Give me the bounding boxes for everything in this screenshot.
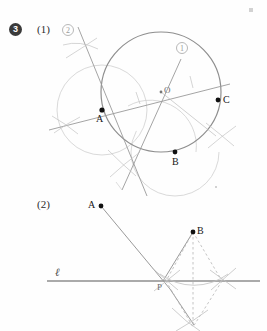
point-b-label: B bbox=[172, 157, 179, 167]
speck-stroke-top bbox=[116, 182, 122, 190]
part1-number-label: (1) bbox=[37, 24, 50, 35]
arc-cross-lower-left bbox=[52, 116, 80, 134]
point-p-label: P bbox=[157, 283, 162, 292]
geometry-figure-canvas bbox=[0, 0, 267, 331]
point-a2-label: A bbox=[88, 200, 95, 210]
label-circled-two: 2 bbox=[62, 24, 74, 36]
point-a-dot bbox=[99, 107, 104, 112]
dashed-right-to-bprime bbox=[193, 281, 222, 327]
point-b-dot bbox=[173, 150, 178, 155]
point-c-label: C bbox=[223, 95, 230, 105]
reflection-kite-dashed bbox=[166, 232, 222, 327]
line-l-label: ℓ bbox=[55, 267, 60, 278]
point-b2-label: B bbox=[197, 226, 204, 236]
worksheet-page: 3 (1) 2 1 A B C O (2) ℓ A B P bbox=[0, 0, 267, 331]
scan-specks bbox=[116, 8, 253, 190]
arc-cross-right bbox=[206, 123, 236, 148]
part2-number-label: (2) bbox=[37, 199, 50, 210]
perpendicular-bisector-ab bbox=[78, 27, 147, 196]
arc-cross-upper-left bbox=[63, 38, 98, 58]
segment-a-to-p bbox=[101, 206, 170, 289]
point-b2-dot bbox=[191, 230, 196, 235]
point-c-dot bbox=[216, 98, 221, 103]
speck-top-right bbox=[249, 8, 253, 12]
speck-mid-right bbox=[215, 186, 217, 188]
arc-cross-right-on-line bbox=[210, 268, 236, 290]
label-circled-one: 1 bbox=[176, 42, 188, 54]
radius-segment-o bbox=[161, 92, 216, 136]
point-o-label: O bbox=[164, 86, 171, 95]
part2-construction bbox=[47, 204, 260, 331]
segment-p-to-b bbox=[163, 232, 193, 281]
arc-cross-bottom bbox=[108, 150, 140, 177]
perpendicular-bisector-ac bbox=[49, 84, 230, 130]
construction-arc-b bbox=[128, 100, 196, 152]
dashed-b-to-right bbox=[193, 232, 222, 281]
part1-construction bbox=[49, 27, 265, 196]
point-a-label: A bbox=[96, 114, 103, 124]
problem-number-badge: 3 bbox=[9, 23, 22, 36]
perpendicular-bisector-bc bbox=[122, 59, 181, 190]
point-o-dot bbox=[160, 91, 163, 94]
dashed-left-to-bprime bbox=[166, 281, 193, 327]
point-a2-dot bbox=[99, 204, 104, 209]
